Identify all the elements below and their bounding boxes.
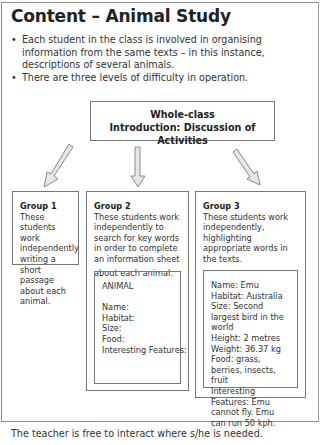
bullet-item: There are three levels of difficulty in … bbox=[10, 72, 315, 85]
sheet-heading: ANIMAL bbox=[102, 281, 173, 292]
sheet-field-name: Name: bbox=[102, 302, 173, 313]
emu-weight: Weight: 36.37 kg bbox=[211, 344, 290, 355]
intro-line-1: Whole-class bbox=[91, 108, 274, 121]
emu-height: Height: 2 metres bbox=[211, 333, 290, 344]
sheet-field-features: Interesting Features: bbox=[102, 345, 173, 356]
group-3-title: Group 3 bbox=[203, 201, 299, 212]
group-1-box: Group 1 These students work independentl… bbox=[12, 191, 79, 265]
animal-info-sheet-blank: ANIMAL Name: Habitat: Size: Food: Intere… bbox=[94, 271, 181, 384]
group-1-title: Group 1 bbox=[20, 201, 72, 212]
emu-features: Interesting Features: Emu cannot fly. Em… bbox=[211, 386, 290, 428]
diagonal-down-right-arrow-icon bbox=[231, 147, 263, 187]
sheet-field-size: Size: bbox=[102, 323, 173, 334]
emu-food: Food: grass, berries, insects, fruit bbox=[211, 354, 290, 386]
sheet-field-food: Food: bbox=[102, 334, 173, 345]
group-3-description: These students work independently, highl… bbox=[203, 212, 288, 264]
whole-class-intro-box: Whole-class Introduction: Discussion of … bbox=[90, 101, 275, 141]
page-title: Content – Animal Study bbox=[11, 6, 231, 26]
bullet-list: Each student in the class is involved in… bbox=[10, 34, 315, 84]
bullet-item: Each student in the class is involved in… bbox=[10, 34, 315, 72]
diagonal-down-left-arrow-icon bbox=[40, 142, 76, 190]
emu-habitat: Habitat: Australia bbox=[211, 291, 290, 302]
group-2-title: Group 2 bbox=[94, 201, 182, 212]
sheet-field-habitat: Habitat: bbox=[102, 313, 173, 324]
footer-note: The teacher is free to interact where s/… bbox=[11, 428, 263, 439]
intro-line-2: Introduction: Discussion of Activities bbox=[91, 121, 274, 147]
group-1-description: These students work independently writin… bbox=[20, 212, 79, 307]
group-2-description: These students work independently to sea… bbox=[94, 212, 179, 264]
emu-info-sheet: Name: Emu Habitat: Australia Size: Secon… bbox=[203, 270, 298, 388]
emu-name: Name: Emu bbox=[211, 280, 290, 291]
emu-size: Size: Second largest bird in the world bbox=[211, 301, 290, 333]
down-arrow-icon bbox=[130, 146, 146, 188]
